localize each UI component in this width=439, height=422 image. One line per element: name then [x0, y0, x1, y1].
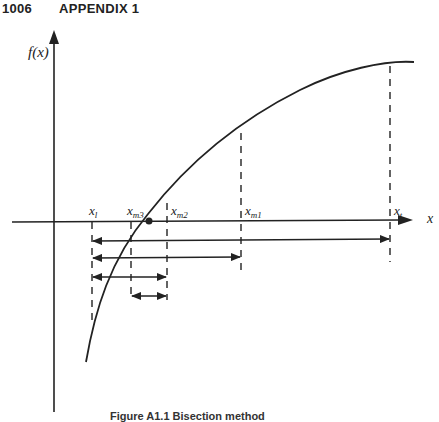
x-axis-label: x — [426, 211, 434, 226]
interval-xl-xt — [93, 239, 389, 241]
x-axis — [12, 215, 413, 225]
y-axis-label: f(x) — [28, 44, 49, 61]
root-point — [146, 218, 153, 225]
guide-lines — [92, 66, 390, 325]
label-xm2: xm2 — [170, 203, 188, 220]
label-xm1: xm1 — [244, 203, 262, 220]
figure-caption: Figure A1.1 Bisection method — [110, 410, 265, 422]
label-xm3: xm3 — [126, 203, 144, 220]
label-xl: xl — [88, 203, 98, 220]
interval-xl-xm1 — [93, 257, 240, 258]
bisection-diagram: f(x) x xl xm3 xm2 xm1 xt — [0, 0, 439, 422]
label-xt: xt — [393, 203, 403, 220]
